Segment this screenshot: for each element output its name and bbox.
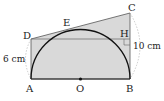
measure-bc: 10 cm bbox=[133, 41, 161, 51]
center-point-o bbox=[79, 77, 82, 80]
label-h: H bbox=[120, 28, 129, 39]
label-c: C bbox=[128, 2, 136, 13]
label-a: A bbox=[25, 83, 34, 94]
dashed-arc-ad bbox=[26, 39, 32, 79]
label-d: D bbox=[23, 30, 31, 41]
geometry-figure: A O B C D E H 6 cm 10 cm bbox=[0, 0, 164, 101]
label-o: O bbox=[76, 83, 84, 94]
label-b: B bbox=[126, 83, 133, 94]
label-e: E bbox=[63, 17, 70, 28]
measure-ad: 6 cm bbox=[3, 54, 26, 64]
trapezoid-abcd bbox=[31, 13, 130, 79]
